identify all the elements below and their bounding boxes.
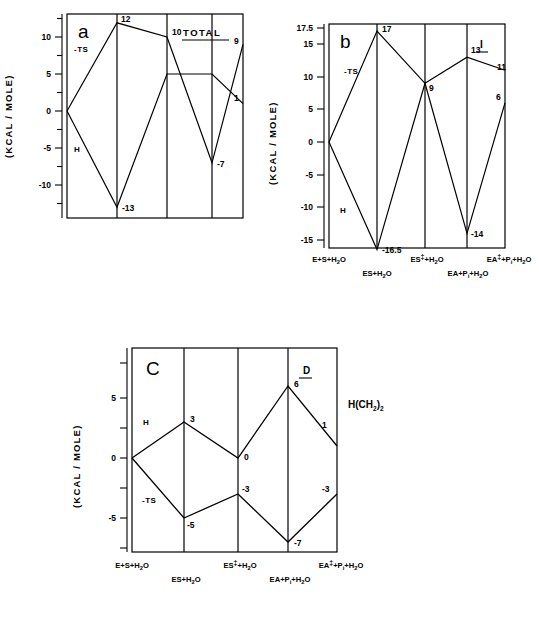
series-ts-c (132, 458, 337, 542)
curve-tag-h-a: H (74, 145, 80, 154)
y-tick-b-1: 15 (304, 39, 314, 49)
panel-b-letter: b (340, 31, 351, 52)
x-label-c-1: ES+H2O (171, 575, 200, 585)
x-label-c-4: EA‡+Pi+H2O (319, 559, 364, 571)
panel-a: (KCAL / MOLE) 10 5 0 -5 -10 (0, 0, 252, 240)
y-ticks-b (317, 28, 324, 240)
y-tick-c-1: 0 (111, 453, 116, 463)
point-label-b-6: 6 (496, 92, 501, 102)
y-tick-c-2: -5 (108, 513, 116, 523)
curve-tag-ts-a: -TS (74, 45, 89, 54)
panel-a-letter: a (78, 21, 89, 42)
curve-tag-ts-c: -TS (142, 496, 157, 505)
curve-tag-h-c: H (143, 418, 149, 427)
y-tick-c-0: 5 (111, 393, 116, 403)
x-label-b-3: EA+Pi+H2O (448, 269, 489, 279)
y-tick-b-3: 5 (308, 104, 313, 114)
y-tick-b-0: 17.5 (296, 23, 313, 33)
point-label-a-1: 1 (234, 93, 239, 103)
x-label-b-4: EA‡+Pi+H2O (487, 253, 532, 265)
plot-frame-c (132, 348, 337, 552)
point-label-b-n165: -16.5 (382, 245, 402, 255)
y-tick-a-4: -10 (39, 180, 52, 190)
point-label-c-6: 6 (294, 379, 299, 389)
y-tick-a-1: 5 (46, 69, 51, 79)
plot-frame-a (67, 14, 243, 218)
panel-a-chart: (KCAL / MOLE) 10 5 0 -5 -10 (0, 0, 252, 240)
point-label-c-3: 3 (190, 414, 195, 424)
series-ts-a (67, 23, 243, 163)
curve-tag-h-b: H (340, 206, 346, 215)
point-label-a-n7: -7 (217, 159, 225, 169)
point-label-b-n14: -14 (471, 229, 484, 239)
point-label-b-11: 11 (497, 62, 506, 72)
panel-c-header: D (303, 365, 310, 376)
y-tick-b-5: -5 (305, 170, 313, 180)
series-h-c (132, 386, 337, 458)
x-label-b-2: ES‡+H2O (410, 253, 443, 265)
y-tick-a-0: 10 (42, 32, 52, 42)
x-axis-labels-c: E+S+H2O ES+H2O ES‡+H2O EA+Pi+H2O EA‡+Pi+… (115, 559, 363, 585)
y-tick-a-2: 0 (46, 106, 51, 116)
y-axis-title-b: (KCAL / MOLE) (267, 101, 278, 185)
y-tick-b-7: -15 (301, 235, 314, 245)
series-h-b (329, 83, 505, 249)
y-axis-title-c: (KCAL / MOLE) (71, 424, 82, 508)
point-label-c-n5: -5 (187, 520, 195, 530)
y-tick-b-4: 0 (308, 137, 313, 147)
x-label-b-1: ES+H2O (362, 269, 391, 279)
plot-frame-b (329, 24, 505, 248)
panel-c: (KCAL / MOLE) 5 0 -5 C D H(CH2)2 (60, 320, 480, 620)
panel-b: (KCAL / MOLE) 17.5 15 10 5 0 -5 -10 -15 (262, 0, 539, 290)
y-tick-b-6: -10 (301, 202, 314, 212)
point-label-c-0: 0 (244, 452, 249, 462)
y-tick-a-3: -5 (43, 143, 51, 153)
panel-c-chart: (KCAL / MOLE) 5 0 -5 C D H(CH2)2 (60, 320, 480, 620)
point-label-c-1: 1 (322, 420, 327, 430)
panel-a-header: TOTAL (183, 27, 221, 38)
point-label-b-17: 17 (382, 24, 392, 34)
x-label-b-0: E+S+H2O (312, 255, 346, 265)
point-label-a-12: 12 (121, 14, 131, 24)
point-label-c-n3b: -3 (322, 484, 330, 494)
curve-tag-ts-b: -TS (344, 67, 359, 76)
panel-c-side-note: H(CH2)2 (348, 399, 384, 412)
x-axis-labels-b: E+S+H2O ES+H2O ES‡+H2O EA+Pi+H2O EA‡+Pi+… (312, 253, 531, 279)
point-label-a-9: 9 (234, 36, 239, 46)
y-axis-title-a: (KCAL / MOLE) (3, 74, 14, 158)
point-label-a-n13: -13 (122, 203, 135, 213)
point-label-b-13: 13 (471, 45, 481, 55)
x-label-c-3: EA+Pi+H2O (270, 575, 311, 585)
panel-c-letter: C (146, 358, 160, 379)
y-tick-b-2: 10 (304, 72, 314, 82)
point-label-b-9: 9 (429, 83, 434, 93)
point-label-a-10: 10 (172, 27, 182, 37)
y-ticks-a (55, 19, 62, 204)
panel-b-chart: (KCAL / MOLE) 17.5 15 10 5 0 -5 -10 -15 (262, 0, 539, 290)
series-h-a (67, 74, 243, 207)
y-ticks-c (120, 363, 127, 548)
x-label-c-2: ES‡+H2O (223, 559, 256, 571)
point-label-c-n7: -7 (294, 538, 302, 548)
x-label-c-0: E+S+H2O (115, 561, 149, 571)
point-label-c-n3a: -3 (242, 484, 250, 494)
